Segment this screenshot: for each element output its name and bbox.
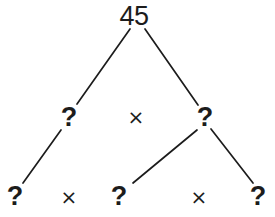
node-root-value: 45 — [119, 3, 148, 30]
edge-root-to-right-branch — [145, 29, 198, 105]
node-right-branch-unknown[interactable]: ? — [197, 104, 214, 131]
edge-root-to-left-branch — [77, 29, 130, 104]
edge-right-branch-to-leaf-2 — [133, 130, 197, 183]
multiplication-icon-middle-row: × — [128, 107, 145, 127]
edge-right-branch-to-leaf-3 — [211, 129, 253, 183]
multiplication-icon-bottom-right: × — [191, 187, 208, 207]
edge-left-branch-to-leaf-1 — [23, 130, 61, 183]
factor-tree-diagram: 45 ? ? ? ? ? × × × — [0, 0, 275, 217]
node-leaf-3-unknown[interactable]: ? — [250, 183, 267, 210]
multiplication-icon-bottom-left: × — [61, 187, 78, 207]
node-left-branch-unknown[interactable]: ? — [61, 104, 78, 131]
node-leaf-1-unknown[interactable]: ? — [7, 183, 24, 210]
node-leaf-2-unknown[interactable]: ? — [111, 183, 128, 210]
